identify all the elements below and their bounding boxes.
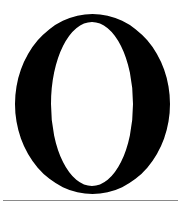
horizontal-rule [3,200,178,201]
letter-o-glyph-icon [0,0,181,206]
